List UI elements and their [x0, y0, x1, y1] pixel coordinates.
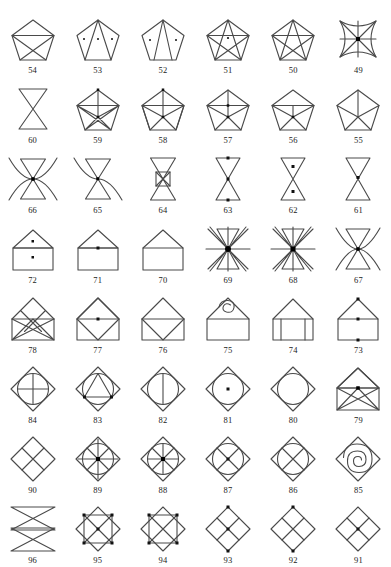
- figure-53-drawing: [72, 14, 124, 64]
- figure-cell[interactable]: 59: [65, 84, 130, 154]
- figure-76-drawing: [137, 294, 189, 344]
- figure-62-drawing: [267, 154, 319, 204]
- figure-cell[interactable]: 58: [130, 84, 195, 154]
- figure-cell[interactable]: 91: [326, 504, 391, 567]
- figure-84-drawing: [7, 364, 59, 414]
- figure-87-drawing: [202, 434, 254, 484]
- figure-88-drawing: [137, 434, 189, 484]
- figures-plate: 54 53 52: [0, 0, 391, 567]
- figure-cell[interactable]: 72: [0, 224, 65, 294]
- figure-cell[interactable]: 78: [0, 294, 65, 364]
- figure-number: 54: [28, 65, 37, 75]
- figure-cell[interactable]: 49: [326, 14, 391, 84]
- figure-49-drawing: [332, 14, 384, 64]
- figure-78-drawing: [7, 294, 59, 344]
- figure-cell[interactable]: 87: [195, 434, 260, 504]
- figure-cell[interactable]: 83: [65, 364, 130, 434]
- figure-number: 73: [354, 345, 363, 355]
- figure-57-drawing: [202, 84, 254, 134]
- figure-number: 60: [28, 135, 37, 145]
- figure-cell[interactable]: 60: [0, 84, 65, 154]
- figure-number: 80: [289, 415, 298, 425]
- figure-cell[interactable]: 66: [0, 154, 65, 224]
- figure-cell[interactable]: 86: [261, 434, 326, 504]
- figures-grid: 54 53 52: [0, 14, 391, 567]
- figure-cell[interactable]: 53: [65, 14, 130, 84]
- figure-93-drawing: [202, 504, 254, 554]
- figure-cell[interactable]: 67: [326, 224, 391, 294]
- figure-number: 76: [158, 345, 167, 355]
- figure-number: 59: [93, 135, 102, 145]
- figure-82-drawing: [137, 364, 189, 414]
- figure-51-drawing: [202, 14, 254, 64]
- figure-cell[interactable]: 51: [195, 14, 260, 84]
- figure-number: 90: [28, 485, 37, 495]
- figure-number: 79: [354, 415, 363, 425]
- figure-cell[interactable]: 75: [195, 294, 260, 364]
- figure-number: 92: [289, 555, 298, 565]
- figure-number: 68: [289, 275, 298, 285]
- figure-50-drawing: [267, 14, 319, 64]
- figure-cell[interactable]: 52: [130, 14, 195, 84]
- figure-number: 56: [289, 135, 298, 145]
- figure-cell[interactable]: 74: [261, 294, 326, 364]
- figure-cell[interactable]: 68: [261, 224, 326, 294]
- figure-83-drawing: [72, 364, 124, 414]
- figure-cell[interactable]: 92: [261, 504, 326, 567]
- figure-91-drawing: [332, 504, 384, 554]
- figure-59-drawing: [72, 84, 124, 134]
- figure-cell[interactable]: 81: [195, 364, 260, 434]
- figure-cell[interactable]: 88: [130, 434, 195, 504]
- figure-number: 70: [158, 275, 167, 285]
- figure-72-drawing: [7, 224, 59, 274]
- figure-cell[interactable]: 64: [130, 154, 195, 224]
- figure-cell[interactable]: 56: [261, 84, 326, 154]
- figure-cell[interactable]: 84: [0, 364, 65, 434]
- figure-cell[interactable]: 54: [0, 14, 65, 84]
- figure-94-drawing: [137, 504, 189, 554]
- figure-cell[interactable]: 79: [326, 364, 391, 434]
- figure-70-drawing: [137, 224, 189, 274]
- figure-cell[interactable]: 70: [130, 224, 195, 294]
- figure-54-drawing: [7, 14, 59, 64]
- figure-cell[interactable]: 73: [326, 294, 391, 364]
- figure-cell[interactable]: 82: [130, 364, 195, 434]
- figure-68-drawing: [267, 224, 319, 274]
- figure-cell[interactable]: 85: [326, 434, 391, 504]
- figure-number: 91: [354, 555, 363, 565]
- figure-81-drawing: [202, 364, 254, 414]
- figure-number: 69: [224, 275, 233, 285]
- figure-number: 83: [93, 415, 102, 425]
- figure-cell[interactable]: 96: [0, 504, 65, 567]
- figure-cell[interactable]: 93: [195, 504, 260, 567]
- figure-90-drawing: [7, 434, 59, 484]
- figure-cell[interactable]: 90: [0, 434, 65, 504]
- figure-cell[interactable]: 63: [195, 154, 260, 224]
- figure-number: 82: [158, 415, 167, 425]
- figure-cell[interactable]: 55: [326, 84, 391, 154]
- figure-number: 61: [354, 205, 363, 215]
- figure-cell[interactable]: 57: [195, 84, 260, 154]
- figure-number: 84: [28, 415, 37, 425]
- figure-number: 50: [289, 65, 298, 75]
- figure-cell[interactable]: 94: [130, 504, 195, 567]
- figure-cell[interactable]: 50: [261, 14, 326, 84]
- figure-cell[interactable]: 76: [130, 294, 195, 364]
- figure-number: 72: [28, 275, 37, 285]
- figure-cell[interactable]: 65: [65, 154, 130, 224]
- figure-cell[interactable]: 80: [261, 364, 326, 434]
- figure-cell[interactable]: 89: [65, 434, 130, 504]
- figure-60-drawing: [7, 84, 59, 134]
- figure-number: 63: [224, 205, 233, 215]
- figure-cell[interactable]: 95: [65, 504, 130, 567]
- figure-cell[interactable]: 77: [65, 294, 130, 364]
- figure-number: 65: [93, 205, 102, 215]
- figure-cell[interactable]: 69: [195, 224, 260, 294]
- figure-cell[interactable]: 71: [65, 224, 130, 294]
- figure-number: 74: [289, 345, 298, 355]
- figure-number: 58: [158, 135, 167, 145]
- figure-cell[interactable]: 62: [261, 154, 326, 224]
- figure-61-drawing: [332, 154, 384, 204]
- figure-63-drawing: [202, 154, 254, 204]
- figure-cell[interactable]: 61: [326, 154, 391, 224]
